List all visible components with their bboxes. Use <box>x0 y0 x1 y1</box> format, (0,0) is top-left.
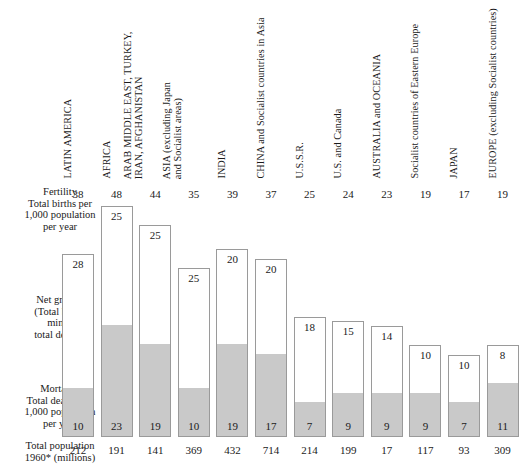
mortality-value: 10 <box>179 420 209 432</box>
total-population-value: 714 <box>251 444 291 456</box>
stacked-bar: 2510 <box>178 268 210 437</box>
total-population-value: 117 <box>405 444 445 456</box>
category-label-line1: Socialist countries of Eastern Europe <box>411 24 422 179</box>
net-growth-value: 10 <box>410 349 440 361</box>
category-label: ASIA (excluding Japanand Socialist areas… <box>162 82 183 179</box>
category-label: U.S.S.R. <box>295 143 306 179</box>
category-label-line1: JAPAN <box>449 148 460 179</box>
mortality-value: 9 <box>410 420 440 432</box>
fertility-value: 38 <box>60 188 96 200</box>
category-label: JAPAN <box>449 148 460 179</box>
total-population-value: 432 <box>212 444 252 456</box>
total-population-value: 309 <box>483 444 523 456</box>
category-label: U.S. and Canada <box>334 109 345 179</box>
net-growth-value: 18 <box>295 321 325 333</box>
stacked-bar: 109 <box>409 345 441 437</box>
stacked-bar: 159 <box>332 321 364 437</box>
fertility-value: 19 <box>485 188 521 200</box>
plot-area: LATIN AMERICA382810212AFRICA482523191ARA… <box>0 0 529 476</box>
total-population-value: 93 <box>444 444 484 456</box>
mortality-value: 9 <box>372 420 402 432</box>
fertility-value: 48 <box>99 188 135 200</box>
fertility-value: 37 <box>253 188 289 200</box>
stacked-bar: 2519 <box>139 225 171 437</box>
net-growth-value: 25 <box>179 272 209 284</box>
category-label-line1: ASIA (excluding Japan <box>162 82 173 179</box>
total-population-value: 214 <box>290 444 330 456</box>
category-label-line1: AFRICA <box>102 141 113 179</box>
net-growth-value: 25 <box>140 229 170 241</box>
net-growth-value: 10 <box>449 359 479 371</box>
stacked-bar: 2523 <box>101 206 133 437</box>
mortality-value: 11 <box>488 420 518 432</box>
category-label-line1: CHINA and Socialist countries in Asia <box>256 18 267 179</box>
total-population-value: 212 <box>58 444 98 456</box>
fertility-value: 25 <box>292 188 328 200</box>
mortality-value: 19 <box>140 420 170 432</box>
net-growth-value: 15 <box>333 325 363 337</box>
category-label-line2: and Socialist areas) <box>172 82 183 179</box>
category-label: EUROPE (excluding Socialist countries) <box>488 9 499 179</box>
net-growth-value: 20 <box>256 263 286 275</box>
fertility-value: 23 <box>369 188 405 200</box>
category-label-line1: U.S. and Canada <box>334 109 345 179</box>
category-label-line1: INDIA <box>218 150 229 179</box>
stacked-bar: 2017 <box>255 259 287 437</box>
net-growth-value: 25 <box>102 210 132 222</box>
stacked-bar: 149 <box>371 326 403 437</box>
fertility-value: 19 <box>407 188 443 200</box>
category-label: LATIN AMERICA <box>63 99 74 179</box>
category-label: AFRICA <box>102 141 113 179</box>
mortality-value: 19 <box>217 420 247 432</box>
category-label: Socialist countries of Eastern Europe <box>411 24 422 179</box>
category-label: INDIA <box>218 150 229 179</box>
category-label: AUSTRALIA and OCEANIA <box>372 54 383 179</box>
stacked-bar: 2019 <box>216 249 248 437</box>
fertility-value: 44 <box>137 188 173 200</box>
fertility-value: 39 <box>214 188 250 200</box>
category-label-line1: LATIN AMERICA <box>63 99 74 179</box>
total-population-value: 17 <box>367 444 407 456</box>
stacked-bar: 811 <box>487 345 519 437</box>
category-label: ARAB MIDDLE EAST, TURKEY,IRAN, AFGHANIST… <box>123 31 144 179</box>
category-label-line2: IRAN, AFGHANISTAN <box>134 31 145 179</box>
mortality-value: 7 <box>449 420 479 432</box>
net-growth-value: 8 <box>488 349 518 361</box>
mortality-value: 9 <box>333 420 363 432</box>
total-population-value: 369 <box>174 444 214 456</box>
net-growth-value: 14 <box>372 330 402 342</box>
total-population-value: 191 <box>97 444 137 456</box>
category-label-line1: AUSTRALIA and OCEANIA <box>372 54 383 179</box>
mortality-value: 10 <box>63 420 93 432</box>
stacked-bar: 107 <box>448 355 480 437</box>
category-label-line1: U.S.S.R. <box>295 143 306 179</box>
category-label: CHINA and Socialist countries in Asia <box>256 18 267 179</box>
net-growth-value: 28 <box>63 258 93 270</box>
stacked-bar: 2810 <box>62 254 94 437</box>
population-growth-chart: Fertility Total births per 1,000 populat… <box>0 0 529 476</box>
category-label-line1: EUROPE (excluding Socialist countries) <box>488 9 499 179</box>
mortality-value: 17 <box>256 420 286 432</box>
mortality-value: 23 <box>102 420 132 432</box>
mortality-value: 7 <box>295 420 325 432</box>
stacked-bar: 187 <box>294 317 326 438</box>
fertility-value: 35 <box>176 188 212 200</box>
fertility-value: 17 <box>446 188 482 200</box>
fertility-value: 24 <box>330 188 366 200</box>
total-population-value: 141 <box>135 444 175 456</box>
total-population-value: 199 <box>328 444 368 456</box>
net-growth-value: 20 <box>217 253 247 265</box>
